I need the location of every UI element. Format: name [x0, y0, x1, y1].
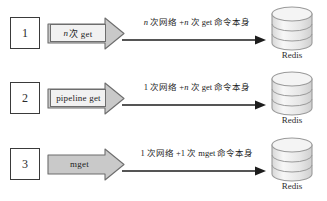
flow-caption-rest: 次 get 命令本身	[188, 82, 250, 92]
step-number-label: 3	[22, 158, 28, 170]
step-number-label: 1	[22, 27, 28, 39]
command-label-text: pipeline get	[56, 93, 101, 103]
command-block-arrow: n 次 get	[47, 17, 125, 50]
command-block-arrow: pipeline get	[47, 82, 125, 115]
network-flow-arrow: 1 次网络 +1 次 mget 命令本身	[122, 147, 267, 181]
flow-caption-mid: 次网络 +	[148, 17, 184, 27]
step-number-box: 2	[10, 82, 40, 114]
step-number-box: 3	[10, 148, 40, 180]
command-label-text: 次 get	[69, 27, 92, 40]
redis-database-icon	[270, 71, 314, 116]
network-flow-arrow: 1 次网络 +n 次 get 命令本身	[122, 81, 267, 115]
command-label: n 次 get	[50, 24, 106, 42]
flow-caption-rest: 次 get 命令本身	[188, 17, 250, 27]
redis-label: Redis	[264, 181, 320, 191]
command-label: pipeline get	[50, 89, 106, 107]
diagram-row: 1 n 次 get n 次网络 +n 次 get 命令本身	[0, 0, 327, 67]
command-label-text: mget	[70, 159, 89, 169]
flow-caption-mid: 次网络 +	[145, 148, 181, 158]
redis-database-icon	[270, 6, 314, 51]
redis-batch-get-diagram: 1 n 次 get n 次网络 +n 次 get 命令本身	[0, 0, 327, 201]
flow-caption: n 次网络 +n 次 get 命令本身	[122, 16, 272, 28]
command-label: mget	[51, 155, 107, 173]
redis-database-icon	[270, 137, 314, 182]
flow-caption-mid: 次网络 +	[148, 82, 184, 92]
redis-label: Redis	[264, 115, 320, 125]
flow-caption: 1 次网络 +1 次 mget 命令本身	[122, 147, 272, 159]
step-number-label: 2	[22, 92, 28, 104]
flow-caption: 1 次网络 +n 次 get 命令本身	[122, 81, 272, 93]
diagram-row: 3 mget 1 次网络 +1 次 mget 命令本身	[0, 131, 327, 198]
diagram-row: 2 pipeline get 1 次网络 +n 次 get 命令本身	[0, 65, 327, 132]
redis-label: Redis	[264, 50, 320, 60]
command-block-arrow: mget	[47, 148, 125, 181]
step-number-box: 1	[10, 17, 40, 49]
network-flow-arrow: n 次网络 +n 次 get 命令本身	[122, 16, 267, 50]
flow-caption-rest: 次 mget 命令本身	[185, 148, 253, 158]
